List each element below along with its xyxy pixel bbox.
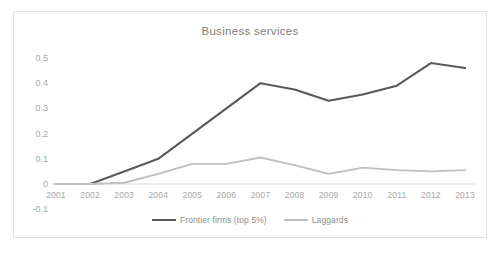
x-axis-tick-label: 2012 <box>421 190 441 200</box>
legend-label: Laggards <box>312 215 348 225</box>
y-axis-tick-label: -0.1 <box>14 204 48 214</box>
y-axis-tick-label: 0.5 <box>14 53 48 63</box>
legend-item-1[interactable]: Laggards <box>284 215 348 225</box>
legend-swatch-icon <box>284 219 308 221</box>
x-axis-tick-label: 2010 <box>353 190 373 200</box>
series-line-0 <box>56 63 465 184</box>
x-axis-tick-label: 2002 <box>80 190 100 200</box>
chart-legend: Frontier firms (top 5%)Laggards <box>14 215 486 225</box>
x-axis-tick-label: 2007 <box>251 190 271 200</box>
series-line-1 <box>56 158 465 184</box>
legend-swatch-icon <box>152 219 176 221</box>
plot-area <box>14 12 488 239</box>
x-axis-tick-label: 2013 <box>455 190 475 200</box>
legend-item-0[interactable]: Frontier firms (top 5%) <box>152 215 267 225</box>
y-axis-tick-label: 0.4 <box>14 78 48 88</box>
y-axis-tick-label: 0.3 <box>14 103 48 113</box>
x-axis-tick-label: 2001 <box>46 190 66 200</box>
x-axis-tick-label: 2006 <box>217 190 237 200</box>
y-axis-tick-label: 0 <box>14 179 48 189</box>
x-axis-tick-label: 2011 <box>387 190 406 200</box>
x-axis-tick-label: 2004 <box>148 190 168 200</box>
y-axis-tick-label: 0.2 <box>14 129 48 139</box>
chart-lines-svg <box>14 12 488 239</box>
chart-title: Business services <box>14 25 486 37</box>
x-axis-tick-label: 2003 <box>114 190 134 200</box>
x-axis-tick-label: 2008 <box>285 190 305 200</box>
y-axis-tick-label: 0.1 <box>14 154 48 164</box>
chart-container: Business services 0.50.40.30.20.10-0.1 2… <box>13 11 487 238</box>
x-axis-tick-label: 2005 <box>182 190 202 200</box>
legend-label: Frontier firms (top 5%) <box>180 215 267 225</box>
x-axis-tick-label: 2009 <box>319 190 339 200</box>
